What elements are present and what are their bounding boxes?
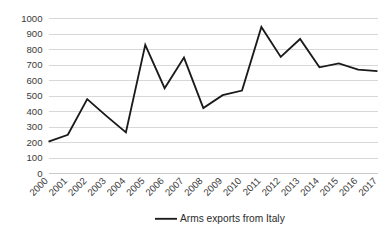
y-tick-label: 1000 xyxy=(21,13,42,24)
series-line xyxy=(49,27,378,142)
y-tick-label: 300 xyxy=(26,121,42,132)
x-axis-tick-labels: 2000200120022003200420052006200720082009… xyxy=(27,175,379,198)
y-tick-label: 500 xyxy=(26,90,42,101)
x-tick-label: 2003 xyxy=(85,175,108,198)
y-tick-label: 800 xyxy=(26,44,42,55)
y-tick-label: 600 xyxy=(26,75,42,86)
chart-container: 01002003004005006007008009001000 2000200… xyxy=(0,0,392,236)
x-tick-label: 2001 xyxy=(46,175,69,198)
x-tick-label: 2011 xyxy=(240,175,262,197)
y-tick-label: 200 xyxy=(26,137,42,148)
x-tick-label: 2013 xyxy=(279,175,302,198)
y-tick-label: 100 xyxy=(26,152,42,163)
x-tick-label: 2017 xyxy=(356,175,379,198)
line-chart: 01002003004005006007008009001000 2000200… xyxy=(0,0,392,236)
x-tick-label: 2006 xyxy=(143,175,166,198)
x-tick-label: 2005 xyxy=(124,175,147,198)
chart-legend: Arms exports from Italy xyxy=(155,213,286,224)
y-axis-tick-labels: 01002003004005006007008009001000 xyxy=(21,13,42,179)
x-tick-label: 2012 xyxy=(259,175,282,198)
x-tick-label: 2004 xyxy=(104,175,127,198)
x-tick-label: 2015 xyxy=(317,175,340,198)
x-tick-label: 2010 xyxy=(221,175,244,198)
gridlines xyxy=(49,19,378,174)
x-tick-label: 2014 xyxy=(298,175,321,198)
legend-entry-label: Arms exports from Italy xyxy=(180,213,286,224)
y-tick-label: 400 xyxy=(26,106,42,117)
x-tick-label: 2016 xyxy=(337,175,360,198)
x-tick-label: 2007 xyxy=(163,175,186,198)
x-tick-label: 2002 xyxy=(66,175,89,198)
x-tick-label: 2008 xyxy=(182,175,205,198)
y-tick-label: 900 xyxy=(26,28,42,39)
y-tick-label: 700 xyxy=(26,59,42,70)
data-series-group xyxy=(49,27,378,142)
x-tick-label: 2000 xyxy=(27,175,50,198)
x-tick-label: 2009 xyxy=(201,175,224,198)
